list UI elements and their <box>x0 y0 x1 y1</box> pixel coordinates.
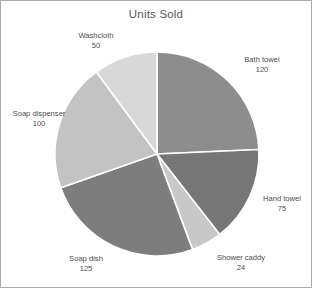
slice-label-shower-caddy: Shower caddy 24 <box>206 253 276 273</box>
slice-label-value: 75 <box>253 204 311 214</box>
slice-label-value: 50 <box>63 41 129 51</box>
slice-label-name: Bath towel <box>231 55 293 65</box>
pie-chart-plot-area[interactable] <box>1 1 312 288</box>
chart-frame: Units Sold Bath towel 120 Hand towel 75 … <box>0 0 312 288</box>
slice-label-hand-towel: Hand towel 75 <box>253 194 311 214</box>
slice-label-name: Shower caddy <box>206 253 276 263</box>
slice-label-soap-dispenser: Soap dispenser 100 <box>2 109 76 129</box>
slice-label-soap-dish: Soap dish 125 <box>53 254 119 274</box>
slice-label-value: 125 <box>53 264 119 274</box>
slice-label-name: Soap dish <box>53 254 119 264</box>
slice-label-value: 120 <box>231 65 293 75</box>
slice-label-bath-towel: Bath towel 120 <box>231 55 293 75</box>
slice-label-name: Soap dispenser <box>2 109 76 119</box>
slice-label-washcloth: Washcloth 50 <box>63 31 129 51</box>
pie-slice-group <box>55 52 259 256</box>
slice-label-value: 100 <box>2 119 76 129</box>
slice-label-name: Hand towel <box>253 194 311 204</box>
slice-label-name: Washcloth <box>63 31 129 41</box>
slice-label-value: 24 <box>206 263 276 273</box>
